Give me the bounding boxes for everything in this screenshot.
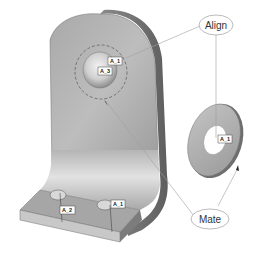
- datum-tag-base-a1: A_1: [111, 200, 125, 208]
- tag-label: A_1: [113, 201, 123, 207]
- tag-label: A_1: [220, 136, 230, 142]
- callout-mate-label: Mate: [199, 214, 222, 225]
- callout-align: Align: [199, 15, 233, 35]
- datum-tag-base-a2: A_2: [60, 206, 75, 214]
- datum-tag-top-a3: A_3: [98, 67, 112, 75]
- assembly-diagram: A_1 A_3 A_2 A_1 A_1 Align Mate: [0, 0, 271, 258]
- washer: [179, 97, 253, 185]
- datum-tag-top-a1: A_1: [108, 57, 122, 65]
- base-hole-left: [50, 190, 66, 200]
- bracket-upright-face: [50, 14, 158, 170]
- l-bracket: [20, 10, 168, 242]
- tag-label: A_1: [110, 58, 120, 64]
- base-hole-right: [97, 200, 113, 210]
- mate-arrow-washer: [236, 165, 239, 171]
- tag-label: A_2: [62, 207, 72, 213]
- datum-tag-washer-a1: A_1: [218, 135, 232, 143]
- callout-mate: Mate: [191, 209, 229, 229]
- tag-label: A_3: [100, 68, 110, 74]
- callout-align-label: Align: [205, 20, 227, 31]
